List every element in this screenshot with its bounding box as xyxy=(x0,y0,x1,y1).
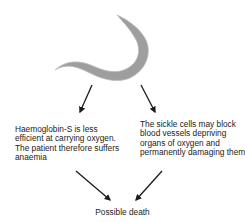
arrow-anaemia-to-death xyxy=(76,171,110,200)
diagram-graphics xyxy=(0,0,245,222)
sickle-cell-icon xyxy=(55,15,148,81)
anaemia-text: Haemoglobin-S is less efficient at carry… xyxy=(15,125,125,163)
arrow-blockage-to-death xyxy=(136,171,162,200)
sickle-cell-consequences-diagram: Haemoglobin-S is less efficient at carry… xyxy=(0,0,245,222)
arrow-to-blockage xyxy=(141,85,155,112)
outcome-text: Possible death xyxy=(0,207,245,217)
arrow-to-anaemia xyxy=(80,85,92,112)
blockage-text: The sickle cells may block blood vessels… xyxy=(140,120,245,158)
